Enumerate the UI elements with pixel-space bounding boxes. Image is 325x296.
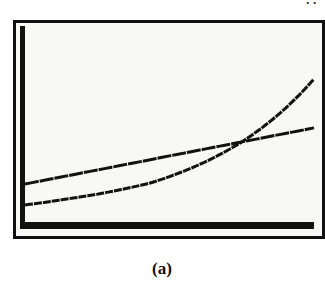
- x-axis: [20, 222, 314, 229]
- exponential-series-line: [25, 79, 314, 205]
- figure-caption: (a): [0, 259, 324, 279]
- y-axis: [20, 26, 25, 229]
